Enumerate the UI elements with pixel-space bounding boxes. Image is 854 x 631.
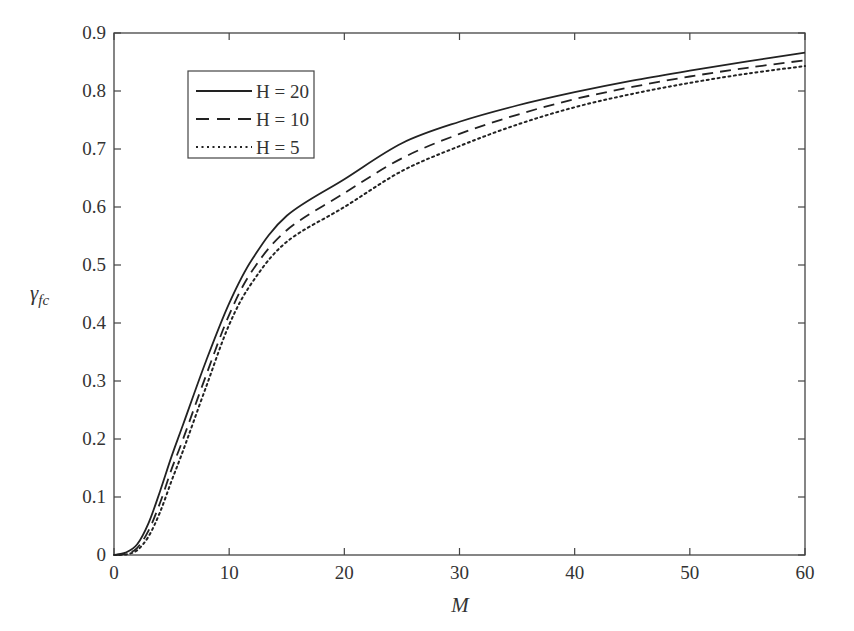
y-tick-label: 0.7 bbox=[82, 138, 106, 159]
x-tick-label: 50 bbox=[680, 562, 699, 583]
y-tick-label: 0.9 bbox=[82, 22, 106, 43]
x-tick-label: 30 bbox=[450, 562, 469, 583]
line-chart: 0102030405060 00.10.20.30.40.50.60.70.80… bbox=[0, 0, 854, 631]
y-tick-label: 0.6 bbox=[82, 196, 106, 217]
legend-label: H = 20 bbox=[256, 81, 309, 102]
y-tick-label: 0.2 bbox=[82, 428, 106, 449]
x-tick-label: 0 bbox=[109, 562, 119, 583]
legend-label: H = 10 bbox=[256, 109, 309, 130]
x-tick-label: 60 bbox=[796, 562, 815, 583]
y-tick-label: 0.5 bbox=[82, 254, 106, 275]
x-tick-label: 20 bbox=[335, 562, 354, 583]
y-tick-label: 0.8 bbox=[82, 80, 106, 101]
y-axis-label: γfc bbox=[30, 281, 49, 308]
x-tick-label: 10 bbox=[220, 562, 239, 583]
y-tick-label: 0 bbox=[97, 544, 107, 565]
legend-label: H = 5 bbox=[256, 137, 299, 158]
x-axis-label: M bbox=[450, 593, 470, 617]
y-tick-label: 0.4 bbox=[82, 312, 106, 333]
y-tick-label: 0.1 bbox=[82, 486, 106, 507]
y-axis-label-subscript: fc bbox=[38, 292, 49, 308]
legend: H = 20H = 10H = 5 bbox=[188, 71, 314, 158]
y-tick-label: 0.3 bbox=[82, 370, 106, 391]
x-tick-label: 40 bbox=[565, 562, 584, 583]
